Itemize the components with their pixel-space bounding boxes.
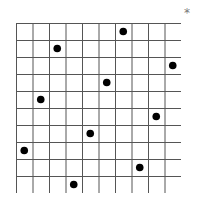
dot [103,79,111,87]
dot [86,130,94,138]
dot [152,113,160,121]
dot [20,147,28,155]
dot [37,96,45,104]
dot [119,28,127,36]
dot [136,164,144,172]
dot [70,181,78,189]
dot [53,45,61,53]
dot [169,62,177,70]
dot-grid [16,23,181,193]
asterisk-marker: * [184,7,190,19]
